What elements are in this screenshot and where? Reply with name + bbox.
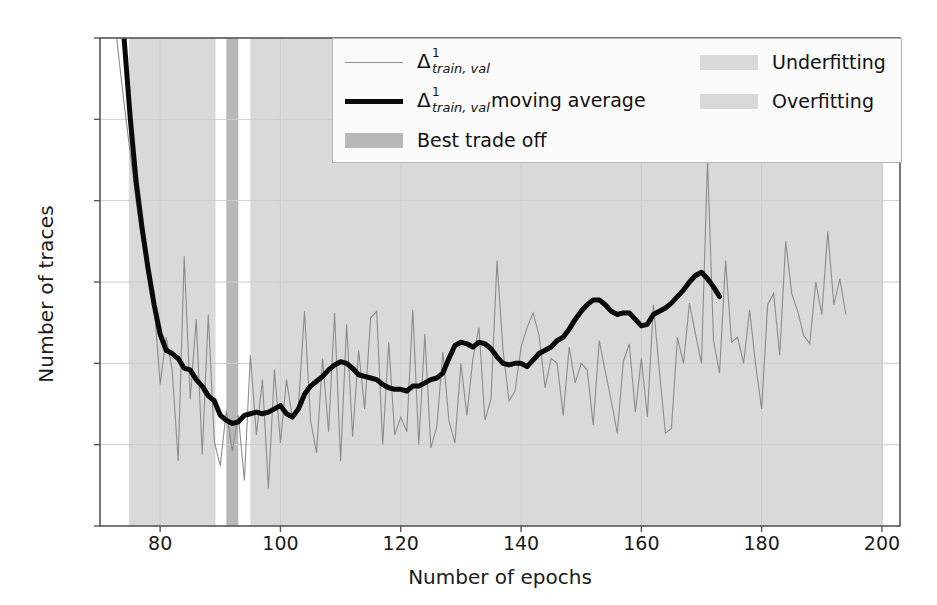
legend-item-moving-average[interactable]: Δ1train, val moving average xyxy=(333,84,646,118)
legend-swatch-overfitting-icon xyxy=(700,94,758,109)
legend-column-right: Underfitting Overfitting xyxy=(688,39,903,162)
legend-item-underfitting[interactable]: Underfitting xyxy=(688,45,886,79)
legend-swatch-thick-line-icon xyxy=(345,99,403,104)
legend-item-overfitting[interactable]: Overfitting xyxy=(688,84,874,118)
legend-label-best-trade-off: Best trade off xyxy=(417,129,547,151)
chart-legend: Δ1train, val Δ1train, val moving average… xyxy=(332,38,902,163)
legend-label-underfitting: Underfitting xyxy=(772,51,886,73)
chart-figure: Number of traces Number of epochs 100150… xyxy=(0,0,937,605)
legend-column-left: Δ1train, val Δ1train, val moving average… xyxy=(333,39,683,162)
legend-label-overfitting: Overfitting xyxy=(772,90,874,112)
legend-swatch-thin-line-icon xyxy=(345,62,403,63)
legend-item-raw[interactable]: Δ1train, val xyxy=(333,45,489,79)
delta-symbol-moving-average: Δ1train, val xyxy=(417,88,489,114)
legend-label-raw: Δ1train, val xyxy=(417,49,489,75)
legend-label-moving-average: Δ1train, val moving average xyxy=(417,88,646,114)
delta-symbol-raw: Δ1train, val xyxy=(417,49,489,75)
legend-swatch-best-trade-off-icon xyxy=(345,133,403,148)
legend-swatch-underfitting-icon xyxy=(700,55,758,70)
legend-label-moving-average-suffix: moving average xyxy=(491,89,646,111)
legend-item-best-trade-off[interactable]: Best trade off xyxy=(333,123,547,157)
